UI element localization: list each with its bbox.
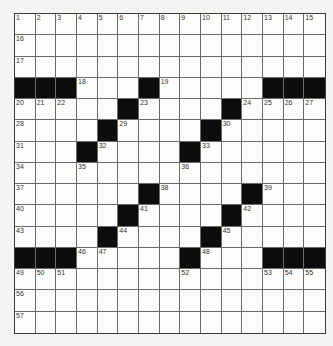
grid-cell[interactable]: 49 xyxy=(15,269,36,290)
grid-cell[interactable] xyxy=(118,184,139,205)
grid-cell[interactable] xyxy=(77,205,98,226)
grid-cell[interactable]: 16 xyxy=(15,35,36,56)
grid-cell[interactable]: 29 xyxy=(118,120,139,141)
grid-cell[interactable]: 1 xyxy=(15,14,36,35)
grid-cell[interactable] xyxy=(56,184,77,205)
grid-cell[interactable] xyxy=(36,35,57,56)
grid-cell[interactable] xyxy=(263,120,284,141)
grid-cell[interactable]: 20 xyxy=(15,99,36,120)
grid-cell[interactable]: 50 xyxy=(36,269,57,290)
grid-cell[interactable] xyxy=(98,290,119,311)
grid-cell[interactable]: 33 xyxy=(201,142,222,163)
grid-cell[interactable]: 31 xyxy=(15,142,36,163)
grid-cell[interactable] xyxy=(139,269,160,290)
grid-cell[interactable] xyxy=(242,312,263,333)
grid-cell[interactable]: 12 xyxy=(242,14,263,35)
grid-cell[interactable]: 13 xyxy=(263,14,284,35)
grid-cell[interactable] xyxy=(160,99,181,120)
grid-cell[interactable]: 40 xyxy=(15,205,36,226)
grid-cell[interactable] xyxy=(98,78,119,99)
grid-cell[interactable]: 25 xyxy=(263,99,284,120)
grid-cell[interactable]: 45 xyxy=(222,227,243,248)
grid-cell[interactable] xyxy=(222,290,243,311)
grid-cell[interactable] xyxy=(201,184,222,205)
grid-cell[interactable]: 34 xyxy=(15,163,36,184)
grid-cell[interactable]: 21 xyxy=(36,99,57,120)
grid-cell[interactable] xyxy=(222,184,243,205)
grid-cell[interactable]: 54 xyxy=(284,269,305,290)
grid-cell[interactable]: 9 xyxy=(180,14,201,35)
grid-cell[interactable] xyxy=(242,248,263,269)
grid-cell[interactable] xyxy=(36,184,57,205)
grid-cell[interactable] xyxy=(284,142,305,163)
grid-cell[interactable] xyxy=(222,78,243,99)
grid-cell[interactable] xyxy=(56,35,77,56)
grid-cell[interactable] xyxy=(139,120,160,141)
grid-cell[interactable]: 28 xyxy=(15,120,36,141)
grid-cell[interactable] xyxy=(77,35,98,56)
grid-cell[interactable] xyxy=(118,312,139,333)
grid-cell[interactable] xyxy=(284,120,305,141)
grid-cell[interactable]: 42 xyxy=(242,205,263,226)
grid-cell[interactable] xyxy=(139,163,160,184)
grid-cell[interactable] xyxy=(242,227,263,248)
grid-cell[interactable] xyxy=(36,142,57,163)
grid-cell[interactable] xyxy=(118,290,139,311)
grid-cell[interactable] xyxy=(139,57,160,78)
grid-cell[interactable] xyxy=(284,312,305,333)
grid-cell[interactable] xyxy=(180,227,201,248)
grid-cell[interactable] xyxy=(98,163,119,184)
grid-cell[interactable]: 27 xyxy=(304,99,325,120)
grid-cell[interactable] xyxy=(201,78,222,99)
grid-cell[interactable]: 5 xyxy=(98,14,119,35)
grid-cell[interactable] xyxy=(222,57,243,78)
grid-cell[interactable] xyxy=(284,184,305,205)
grid-cell[interactable] xyxy=(77,312,98,333)
grid-cell[interactable]: 6 xyxy=(118,14,139,35)
grid-cell[interactable]: 23 xyxy=(139,99,160,120)
grid-cell[interactable] xyxy=(201,205,222,226)
grid-cell[interactable] xyxy=(201,35,222,56)
grid-cell[interactable]: 57 xyxy=(15,312,36,333)
grid-cell[interactable] xyxy=(160,205,181,226)
grid-cell[interactable] xyxy=(118,163,139,184)
grid-cell[interactable] xyxy=(222,312,243,333)
grid-cell[interactable]: 38 xyxy=(160,184,181,205)
grid-cell[interactable] xyxy=(304,35,325,56)
grid-cell[interactable]: 8 xyxy=(160,14,181,35)
grid-cell[interactable] xyxy=(180,205,201,226)
grid-cell[interactable]: 52 xyxy=(180,269,201,290)
grid-cell[interactable] xyxy=(77,184,98,205)
grid-cell[interactable]: 14 xyxy=(284,14,305,35)
grid-cell[interactable] xyxy=(242,35,263,56)
grid-cell[interactable] xyxy=(263,163,284,184)
grid-cell[interactable] xyxy=(304,184,325,205)
grid-cell[interactable] xyxy=(160,248,181,269)
grid-cell[interactable] xyxy=(98,35,119,56)
grid-cell[interactable] xyxy=(139,142,160,163)
grid-cell[interactable] xyxy=(118,248,139,269)
grid-cell[interactable] xyxy=(180,184,201,205)
grid-cell[interactable] xyxy=(139,290,160,311)
grid-cell[interactable] xyxy=(98,184,119,205)
grid-cell[interactable] xyxy=(118,57,139,78)
grid-cell[interactable] xyxy=(180,290,201,311)
grid-cell[interactable] xyxy=(222,142,243,163)
grid-cell[interactable] xyxy=(242,163,263,184)
grid-cell[interactable] xyxy=(36,227,57,248)
grid-cell[interactable] xyxy=(304,312,325,333)
grid-cell[interactable] xyxy=(160,163,181,184)
grid-cell[interactable]: 48 xyxy=(201,248,222,269)
grid-cell[interactable]: 36 xyxy=(180,163,201,184)
grid-cell[interactable]: 15 xyxy=(304,14,325,35)
grid-cell[interactable] xyxy=(180,312,201,333)
grid-cell[interactable]: 30 xyxy=(222,120,243,141)
grid-cell[interactable]: 43 xyxy=(15,227,36,248)
grid-cell[interactable] xyxy=(263,290,284,311)
grid-cell[interactable] xyxy=(118,78,139,99)
grid-cell[interactable] xyxy=(263,35,284,56)
grid-cell[interactable] xyxy=(160,142,181,163)
grid-cell[interactable] xyxy=(56,57,77,78)
grid-cell[interactable] xyxy=(284,205,305,226)
grid-cell[interactable] xyxy=(36,312,57,333)
